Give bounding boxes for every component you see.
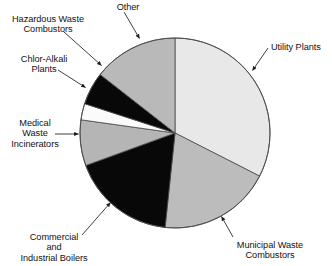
label-hazardous-waste-combustors: Hazardous Waste Combustors bbox=[6, 14, 90, 35]
label-other: Other bbox=[108, 2, 148, 12]
leader-line-utility-plants bbox=[253, 48, 269, 71]
label-medical-waste-incinerators: Medical Waste Incinerators bbox=[0, 118, 70, 149]
label-other-line1: Other bbox=[108, 2, 148, 12]
label-chlor-alkali-plants-line1: Chlor-Alkali bbox=[10, 54, 78, 64]
leader-line-municipal-waste-combustors bbox=[222, 217, 234, 238]
label-hazardous-waste-combustors-line2: Combustors bbox=[6, 24, 90, 34]
label-municipal-waste-combustors: Municipal Waste Combustors bbox=[224, 240, 316, 261]
label-municipal-waste-combustors-line1: Municipal Waste bbox=[224, 240, 316, 250]
pie-slices bbox=[80, 38, 270, 228]
label-medical-waste-incinerators-line2: Waste bbox=[0, 128, 70, 138]
label-commercial-and-industrial-boilers-line2: and bbox=[8, 242, 100, 252]
label-medical-waste-incinerators-line1: Medical bbox=[0, 118, 70, 128]
label-medical-waste-incinerators-line3: Incinerators bbox=[0, 139, 70, 149]
pie-chart-figure: Other Hazardous Waste Combustors Chlor-A… bbox=[0, 0, 332, 266]
leader-line-other bbox=[124, 12, 140, 39]
label-utility-plants: Utility Plants bbox=[271, 42, 331, 52]
label-hazardous-waste-combustors-line1: Hazardous Waste bbox=[6, 14, 90, 24]
label-chlor-alkali-plants-line2: Plants bbox=[10, 64, 78, 74]
label-municipal-waste-combustors-line2: Combustors bbox=[224, 250, 316, 260]
label-commercial-and-industrial-boilers-line3: Industrial Boilers bbox=[8, 253, 100, 263]
label-chlor-alkali-plants: Chlor-Alkali Plants bbox=[10, 54, 78, 75]
label-utility-plants-line1: Utility Plants bbox=[271, 42, 331, 52]
label-commercial-and-industrial-boilers: Commercial and Industrial Boilers bbox=[8, 232, 100, 263]
leader-line-commercial-and-industrial-boilers bbox=[82, 203, 111, 236]
label-commercial-and-industrial-boilers-line1: Commercial bbox=[8, 232, 100, 242]
